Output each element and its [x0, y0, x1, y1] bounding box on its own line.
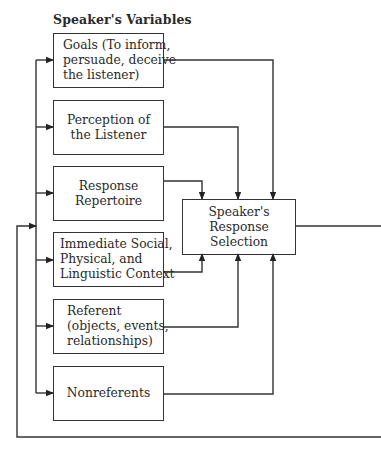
box-label-line: relationships) [67, 334, 153, 349]
box-label-line: Speaker's [208, 205, 269, 220]
box-label-line: Response [79, 179, 139, 194]
box-label-line: Response [209, 220, 269, 235]
referent-box: Referent (objects, events, relationships… [53, 299, 164, 354]
box-label-line: Nonreferents [67, 386, 150, 401]
repertoire-box: Response Repertoire [53, 166, 164, 221]
box-label-line: Goals (To inform, [63, 38, 170, 53]
response-selection-box: Speaker's Response Selection [182, 199, 296, 255]
diagram-title: Speaker's Variables [53, 12, 192, 27]
box-label-line: the Listener [71, 128, 147, 143]
box-label-line: Physical, and [60, 252, 142, 267]
box-label-line: Repertoire [75, 194, 142, 209]
box-label-line: Linguistic Context [60, 267, 175, 282]
context-box: Immediate Social, Physical, and Linguist… [53, 232, 164, 287]
box-label-line: Immediate Social, [60, 237, 173, 252]
perception-box: Perception of the Listener [53, 100, 164, 155]
goals-box: Goals (To inform, persuade, deceive the … [53, 33, 164, 88]
box-label-line: Perception of [67, 113, 150, 128]
diagram-canvas: Speaker's Variables Goals (To inform, pe… [0, 0, 381, 454]
box-label-line: persuade, deceive [63, 53, 176, 68]
box-label-line: Selection [210, 235, 268, 250]
box-label-line: the listener) [63, 68, 139, 83]
nonreferents-box: Nonreferents [53, 366, 164, 421]
box-label-line: (objects, events, [67, 319, 169, 334]
box-label-line: Referent [67, 304, 121, 319]
